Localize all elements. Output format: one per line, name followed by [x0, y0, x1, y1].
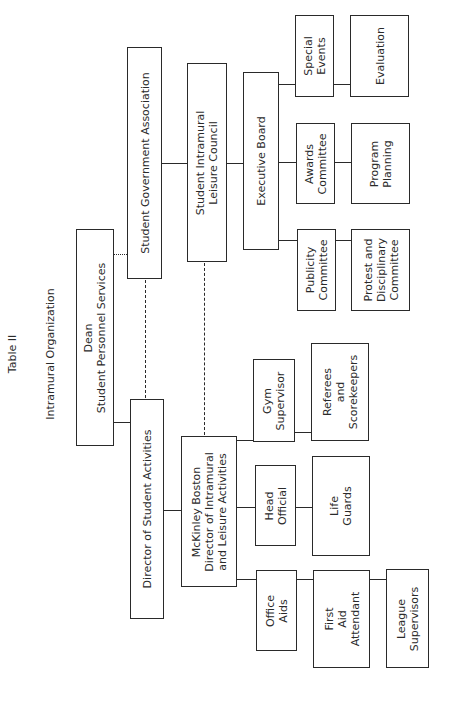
connector-exec-special: [279, 84, 295, 85]
node-evaluation: Evaluation: [350, 15, 409, 97]
chart-title: Intramural Organization: [44, 288, 57, 420]
node-head-official: HeadOfficial: [255, 465, 296, 546]
connector-sga-council: [162, 163, 187, 164]
connector-mckinley-gym: [237, 440, 253, 441]
connector-publicity-protest: [336, 240, 351, 241]
node-awards-committee: AwardsCommittee: [296, 123, 335, 204]
connector-dsa-mckinley: [164, 510, 181, 511]
connector-awards-program: [335, 162, 351, 163]
node-first-aid-attendant: FirstAidAttendant: [313, 570, 370, 668]
node-director-student-activities: Director of Student Activities: [130, 399, 164, 619]
node-protest-disciplinary-committee: Protest andDisciplinaryCommittee: [351, 229, 410, 311]
node-office-aids: OfficeAids: [256, 570, 297, 651]
node-referees-scorekeepers: RefereesandScorekeepers: [311, 343, 369, 441]
connector-mckinley-office: [237, 579, 256, 580]
connector-firstaid-league: [370, 579, 386, 580]
connector-head-lifeguards: [296, 507, 312, 508]
node-special-events: SpecialEvents: [295, 15, 334, 97]
connector-gym-referees: [295, 432, 311, 433]
connector-mckinley-council: [204, 263, 205, 435]
node-dean: DeanStudent Personnel Services: [76, 229, 114, 446]
connector-mckinley-head: [237, 507, 255, 508]
node-student-intramural-leisure-council: Student IntramuralLeisure Council: [187, 63, 227, 262]
node-publicity-committee: PublicityCommittee: [297, 229, 336, 311]
table-label: Table II: [6, 335, 19, 373]
connector-special-evaluation: [334, 84, 350, 85]
node-life-guards: LifeGuards: [312, 456, 370, 556]
node-league-supervisors: LeagueSupervisors: [386, 569, 429, 668]
connector-dean-sga: [114, 254, 127, 255]
node-sga: Student Government Association: [127, 47, 162, 279]
connector-dsa-sga: [145, 280, 146, 398]
connector-exec-publicity: [279, 240, 297, 241]
node-gym-supervisor: GymSupervisor: [253, 359, 295, 442]
connector-dean-dsa: [114, 422, 130, 423]
node-mckinley-boston: McKinley BostonDirector of Intramuraland…: [181, 436, 237, 587]
node-executive-board: Executive Board: [243, 72, 279, 250]
connector-council-exec: [227, 163, 243, 164]
connector-office-firstaid: [297, 579, 313, 580]
connector-exec-awards: [279, 162, 296, 163]
node-program-planning: ProgramPlanning: [351, 123, 410, 204]
